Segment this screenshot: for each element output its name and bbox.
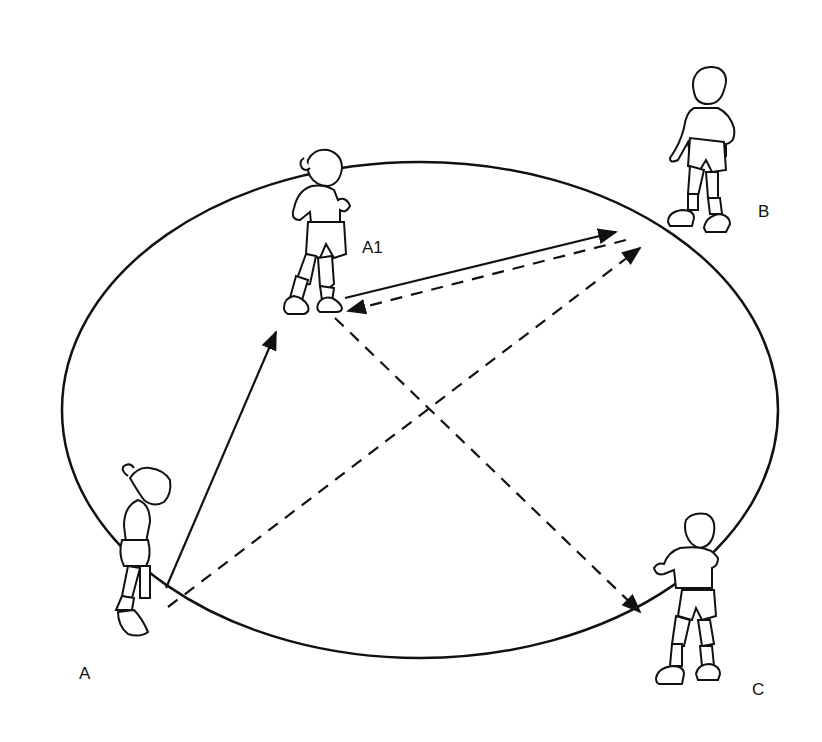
label-b: B [758, 202, 769, 222]
field-circle [62, 162, 778, 658]
arrow-a-to-b [168, 248, 640, 607]
drill-diagram [0, 0, 822, 742]
arrow-b-to-a1 [348, 240, 626, 311]
player-c-figure [654, 514, 720, 684]
arrow-a1-to-c [335, 318, 640, 612]
player-a-figure [116, 464, 170, 635]
player-a1-figure [284, 150, 350, 314]
arrow-a1-to-b [345, 232, 616, 298]
arrow-a-to-a1 [166, 332, 276, 588]
label-c: C [752, 680, 764, 700]
label-a1: A1 [362, 238, 383, 258]
label-a: A [79, 664, 90, 684]
player-b-figure [668, 67, 734, 232]
